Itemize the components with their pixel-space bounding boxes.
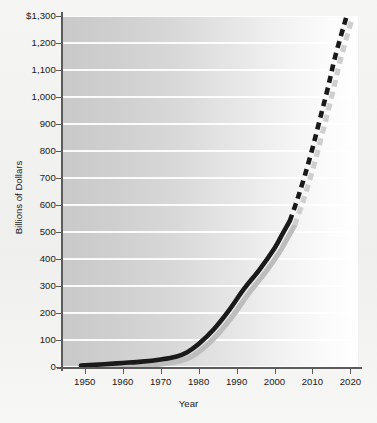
y-axis-tick — [56, 124, 62, 125]
x-axis-tick-label: 1990 — [226, 376, 247, 387]
y-axis-tick — [56, 70, 62, 71]
x-axis-tick — [123, 369, 124, 374]
y-axis-title: Billions of Dollars — [13, 143, 24, 253]
y-axis-tick-label: 600 — [2, 199, 56, 210]
y-axis-tick — [56, 232, 62, 233]
y-axis-tick-label: 1,100 — [2, 64, 56, 75]
x-axis-tick-label: 2010 — [302, 376, 323, 387]
x-axis-tick-label: 2000 — [264, 376, 285, 387]
y-axis-tick — [56, 313, 62, 314]
projected-line-shadow — [295, 20, 352, 225]
y-axis-tick-label: 1,000 — [2, 91, 56, 102]
y-axis-tick-label: 900 — [2, 118, 56, 129]
y-axis-tick-label: 300 — [2, 280, 56, 291]
x-axis-tick-label: 1980 — [188, 376, 209, 387]
actual-line-shadow — [86, 225, 295, 367]
y-axis-tick-label: 100 — [2, 334, 56, 345]
x-axis-tick — [199, 369, 200, 374]
x-axis-tick — [350, 369, 351, 374]
plot-area — [62, 16, 358, 367]
y-axis-tick — [56, 259, 62, 260]
projected-line — [290, 16, 347, 221]
x-axis-tick — [161, 369, 162, 374]
x-axis-line — [57, 367, 362, 369]
y-axis-tick-label: 200 — [2, 307, 56, 318]
y-axis-tick — [56, 286, 62, 287]
y-axis-tick-label: 1,200 — [2, 37, 56, 48]
y-axis-tick-label: 500 — [2, 226, 56, 237]
y-axis-tick — [56, 367, 62, 368]
x-axis-tick — [85, 369, 86, 374]
y-axis-line — [61, 12, 63, 371]
x-axis-tick-label: 1970 — [150, 376, 171, 387]
chart-page: 01002003004005006007008009001,0001,1001,… — [0, 0, 377, 423]
y-axis-tick — [56, 178, 62, 179]
x-axis-tick — [275, 369, 276, 374]
x-axis-tick — [237, 369, 238, 374]
y-axis-tick — [56, 340, 62, 341]
x-axis-title: Year — [0, 398, 377, 409]
y-axis-tick — [56, 16, 62, 17]
y-axis-tick-label: $1,300 — [2, 10, 56, 21]
y-axis-tick — [56, 43, 62, 44]
y-axis-tick-label: 800 — [2, 145, 56, 156]
y-axis-tick-label: 0 — [2, 361, 56, 372]
y-axis-tick — [56, 97, 62, 98]
x-axis-tick-label: 1960 — [112, 376, 133, 387]
data-series-layer — [62, 16, 358, 367]
x-axis-tick-label: 1950 — [74, 376, 95, 387]
x-axis-tick — [312, 369, 313, 374]
actual-line — [81, 221, 290, 365]
y-axis-tick-label: 400 — [2, 253, 56, 264]
y-axis-tick — [56, 151, 62, 152]
y-axis-tick-labels: 01002003004005006007008009001,0001,1001,… — [0, 0, 56, 423]
y-axis-tick — [56, 205, 62, 206]
y-axis-tick-label: 700 — [2, 172, 56, 183]
x-axis-tick-label: 2020 — [340, 376, 361, 387]
